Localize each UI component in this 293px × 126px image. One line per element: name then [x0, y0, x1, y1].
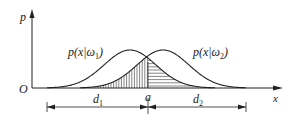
dimension-d1-label: d1	[93, 92, 103, 108]
arrow-right-icon	[238, 105, 246, 110]
y-axis-label: p	[19, 10, 26, 24]
class-2-label: p(x|ω2)	[192, 45, 228, 61]
vertical-hatch-region	[98, 56, 147, 88]
dimension-d2-label: d2	[193, 92, 203, 108]
class-1-label: p(x|ω1)	[67, 45, 103, 61]
origin-label: O	[19, 82, 28, 96]
x-axis-arrow-icon	[273, 86, 283, 91]
arrow-center-right-icon	[148, 105, 156, 110]
x-axis-label: x	[272, 92, 278, 104]
arrow-center-left-icon	[140, 105, 148, 110]
diagram: p x O p(x|ω1) p(x|ω2) a d1 d2	[0, 0, 293, 126]
y-axis-arrow-icon	[30, 9, 35, 18]
arrow-left-icon	[47, 105, 55, 110]
threshold-label: a	[145, 90, 151, 104]
